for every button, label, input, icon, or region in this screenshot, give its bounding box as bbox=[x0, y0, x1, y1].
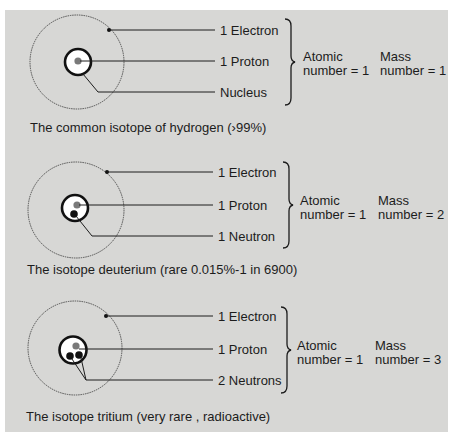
caption-deuterium: The isotope deuterium (rare 0.015%-1 in … bbox=[27, 262, 297, 277]
electron-label: 1 Electron bbox=[218, 309, 277, 324]
mass-number-value: number = 2 bbox=[378, 208, 444, 222]
atomic-number-value: number = 1 bbox=[300, 208, 366, 222]
caption-tritium: The isotope tritium (very rare , radioac… bbox=[26, 409, 270, 424]
neutron-label: 1 Neutron bbox=[218, 229, 275, 244]
neutron-leader bbox=[72, 359, 213, 380]
electron-label: 1 Electron bbox=[218, 165, 277, 180]
brace bbox=[285, 19, 295, 105]
nucleus-label: Nucleus bbox=[220, 85, 267, 100]
neutron bbox=[66, 352, 74, 360]
mass-number-title: Mass bbox=[378, 194, 409, 208]
neutrons-label: 2 Neutrons bbox=[218, 373, 282, 388]
neutron bbox=[75, 351, 83, 359]
atomic-number-title: Atomic bbox=[300, 194, 340, 208]
electron-label: 1 Electron bbox=[220, 23, 279, 38]
atomic-number-value: number = 1 bbox=[303, 64, 369, 78]
mass-number-title: Mass bbox=[380, 50, 411, 64]
nucleus-leader bbox=[83, 74, 215, 92]
proton-label: 1 Proton bbox=[220, 54, 269, 69]
proton-label: 1 Proton bbox=[218, 342, 267, 357]
atomic-number-title: Atomic bbox=[303, 50, 343, 64]
mass-number-value: number = 1 bbox=[380, 64, 446, 78]
atomic-number-value: number = 1 bbox=[297, 353, 363, 367]
brace bbox=[281, 307, 291, 393]
proton-label: 1 Proton bbox=[218, 198, 267, 213]
mass-number-title: Mass bbox=[375, 339, 406, 353]
proton bbox=[72, 342, 79, 349]
neutron-leader bbox=[76, 216, 213, 236]
caption-hydrogen: The common isotope of hydrogen (›99%) bbox=[30, 120, 266, 135]
mass-number-value: number = 3 bbox=[375, 353, 441, 367]
atomic-number-title: Atomic bbox=[297, 339, 337, 353]
brace bbox=[283, 162, 293, 248]
nucleus bbox=[60, 337, 87, 364]
